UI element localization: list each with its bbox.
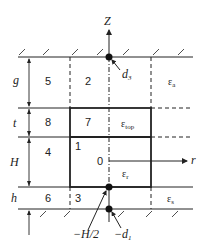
d3-label: d3	[122, 67, 132, 82]
resonator-diagram: Z r 0 d3 −H/2 −d1 g t H h 5 2 8 7 4 1 6 …	[0, 0, 205, 250]
minus-d1-label: −d1	[114, 227, 132, 242]
g-label: g	[13, 73, 19, 87]
dimension-t	[27, 109, 31, 136]
h-label: h	[11, 191, 17, 205]
region-2-label: 2	[85, 75, 91, 87]
eps-s-label: εs	[167, 193, 174, 206]
dimension-H	[27, 138, 31, 186]
t-label: t	[13, 116, 17, 130]
bottom-ground-plane	[18, 209, 193, 217]
resonator-box	[70, 108, 151, 187]
point-minus-h2	[106, 184, 113, 191]
r-axis-label: r	[191, 153, 196, 167]
region-7-label: 7	[85, 116, 91, 128]
region-4-label: 4	[45, 146, 51, 158]
minus-h2-label: −H/2	[73, 227, 99, 241]
minus-d1-pointer	[112, 212, 121, 228]
eps-top-label: εtop	[121, 118, 135, 131]
region-1-label: 1	[75, 140, 81, 152]
eps-a-label: εa	[168, 76, 176, 89]
minus-h2-pointer	[88, 191, 106, 230]
z-axis-label: Z	[104, 14, 111, 28]
region-3-label: 3	[75, 192, 81, 204]
eps-r-label: εr	[122, 168, 129, 181]
region-5-label: 5	[45, 75, 51, 87]
region-6-label: 6	[45, 192, 51, 204]
top-ground-plane	[18, 49, 193, 57]
region-8-label: 8	[45, 116, 51, 128]
origin-label: 0	[97, 155, 103, 167]
H-label: H	[9, 155, 20, 169]
point-d3	[106, 54, 113, 61]
point-minus-d1	[106, 206, 113, 213]
dimension-h	[27, 210, 31, 235]
dimension-g	[27, 58, 31, 107]
d3-pointer	[112, 60, 120, 70]
